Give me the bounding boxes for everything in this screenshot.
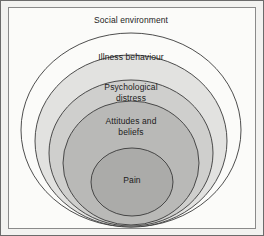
- diagram-canvas: [1, 1, 264, 236]
- figure-container: Social environment Illness behaviour Psy…: [0, 0, 264, 236]
- ellipse-pain: [91, 148, 173, 216]
